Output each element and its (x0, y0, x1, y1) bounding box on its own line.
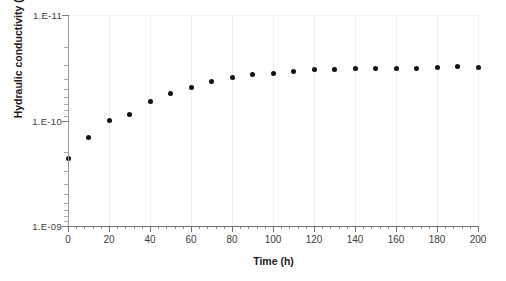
x-tick-major (478, 226, 479, 232)
x-tick-label: 120 (306, 234, 323, 245)
x-tick-minor (462, 226, 463, 229)
x-tick-label: 100 (265, 234, 282, 245)
x-tick-minor (322, 226, 323, 229)
x-tick-minor (142, 226, 143, 229)
gridline-vertical (478, 15, 479, 226)
y-tick-minor (64, 79, 69, 80)
x-tick-minor (306, 226, 307, 229)
data-point (332, 67, 337, 72)
x-tick-minor (281, 226, 282, 229)
x-tick-minor (158, 226, 159, 229)
x-tick-minor (371, 226, 372, 229)
gridline-vertical (314, 15, 315, 226)
y-tick-minor (64, 152, 69, 153)
data-point (373, 66, 378, 71)
x-tick-minor (76, 226, 77, 229)
x-tick-label: 80 (226, 234, 237, 245)
x-tick-major (437, 226, 438, 232)
x-tick-label: 40 (144, 234, 155, 245)
data-point (291, 69, 296, 74)
gridline-vertical (437, 15, 438, 226)
x-tick-minor (404, 226, 405, 229)
gridline-vertical (191, 15, 192, 226)
data-point (455, 64, 460, 69)
x-tick-minor (429, 226, 430, 229)
x-tick-minor (265, 226, 266, 229)
data-point (148, 99, 153, 104)
data-point (189, 85, 194, 90)
x-tick-minor (330, 226, 331, 229)
data-point (271, 71, 276, 76)
data-point (394, 66, 399, 71)
y-tick-minor (64, 104, 69, 105)
x-tick-major (150, 226, 151, 232)
y-axis-line (68, 15, 69, 227)
x-tick-minor (117, 226, 118, 229)
y-tick-minor (64, 110, 69, 111)
y-tick-label-group: 1.E-111.E-101.E-09 (0, 15, 62, 227)
x-tick-minor (199, 226, 200, 229)
x-tick-major (314, 226, 315, 232)
y-tick-major (62, 121, 69, 122)
x-tick-major (68, 226, 69, 232)
data-point (209, 79, 214, 84)
gridline-vertical (150, 15, 151, 226)
x-tick-minor (175, 226, 176, 229)
data-point (414, 66, 419, 71)
x-tick-group (68, 226, 479, 234)
data-point (476, 65, 481, 70)
y-tick-minor (64, 221, 69, 222)
x-tick-minor (224, 226, 225, 229)
y-tick-minor (64, 97, 69, 98)
x-tick-major (273, 226, 274, 232)
y-tick-minor (64, 194, 69, 195)
x-tick-minor (412, 226, 413, 229)
y-tick-minor (64, 210, 69, 211)
gridline-vertical (232, 15, 233, 226)
data-point (107, 118, 112, 123)
x-tick-minor (257, 226, 258, 229)
data-point (230, 75, 235, 80)
x-tick-label: 20 (103, 234, 114, 245)
x-tick-major (396, 226, 397, 232)
data-point (435, 65, 440, 70)
x-tick-minor (93, 226, 94, 229)
x-tick-minor (183, 226, 184, 229)
x-tick-minor (125, 226, 126, 229)
x-tick-minor (216, 226, 217, 229)
x-tick-minor (134, 226, 135, 229)
data-point (127, 112, 132, 117)
x-tick-minor (248, 226, 249, 229)
x-tick-major (232, 226, 233, 232)
gridline-vertical (355, 15, 356, 226)
y-tick-minor (64, 89, 69, 90)
x-tick-minor (445, 226, 446, 229)
gridline-vertical (273, 15, 274, 226)
x-tick-minor (347, 226, 348, 229)
x-axis-title: Time (h) (68, 255, 479, 267)
x-tick-minor (339, 226, 340, 229)
data-point (312, 67, 317, 72)
y-tick-minor (64, 47, 69, 48)
x-tick-major (355, 226, 356, 232)
data-point (86, 135, 91, 140)
y-tick-minor (64, 203, 69, 204)
x-tick-minor (240, 226, 241, 229)
y-tick-minor (64, 116, 69, 117)
x-tick-label: 180 (429, 234, 446, 245)
data-point (250, 72, 255, 77)
x-tick-minor (453, 226, 454, 229)
x-tick-major (109, 226, 110, 232)
plot-area (68, 15, 478, 226)
x-tick-label: 140 (347, 234, 364, 245)
x-tick-minor (470, 226, 471, 229)
data-point (353, 66, 358, 71)
x-tick-minor (388, 226, 389, 229)
y-tick-minor (64, 171, 69, 172)
x-tick-label: 200 (470, 234, 487, 245)
x-tick-minor (289, 226, 290, 229)
data-point (168, 91, 173, 96)
y-tick-label: 1.E-10 (32, 115, 62, 126)
y-tick-label: 1.E-09 (32, 221, 62, 232)
gridline-vertical (396, 15, 397, 226)
